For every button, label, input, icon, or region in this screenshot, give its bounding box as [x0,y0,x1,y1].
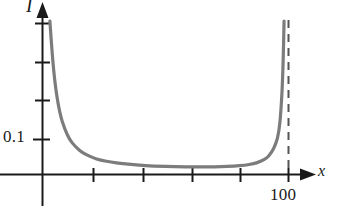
x-axis-label: x [318,163,325,179]
plot-canvas [0,0,337,206]
chart-figure: I x 0.1 100 [0,0,337,206]
y-tick-label-0-1: 0.1 [3,128,25,145]
x-axis [0,169,316,181]
y-axis-arrowhead [37,2,49,18]
x-tick-label-100: 100 [270,186,296,203]
curve-intensity [50,21,284,167]
x-axis-arrowhead [300,169,316,181]
y-axis-label: I [26,0,32,15]
